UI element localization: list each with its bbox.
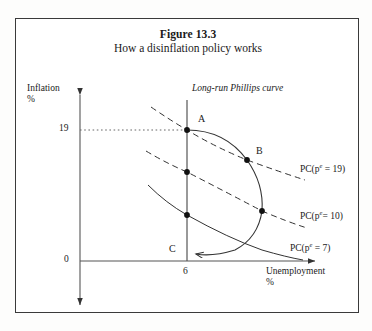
x-axis-label-line1: Unemployment — [266, 266, 325, 276]
y-axis-label: Inflation % — [27, 83, 60, 105]
pc-10-prefix: PC(p — [300, 211, 320, 221]
point-a-label: A — [198, 113, 205, 124]
pc-7-prefix: PC(p — [290, 243, 310, 253]
x-axis-label-line2: % — [266, 277, 274, 287]
y-axis-label-line2: % — [27, 94, 35, 104]
figure-caption: How a disinflation policy works — [16, 41, 360, 55]
x-tick-6-label: 6 — [183, 266, 188, 276]
point-b-label: B — [256, 145, 263, 156]
figure-container: Figure 13.3 How a disinflation policy wo… — [0, 0, 372, 331]
pc-19-suffix: = 19) — [322, 164, 345, 174]
pc-curve-7-label: PC(pe = 7) — [290, 243, 330, 253]
pc-curve-19-label: PC(pe = 19) — [300, 164, 345, 174]
pc-19-prefix: PC(p — [300, 164, 320, 174]
y-tick-19-label: 19 — [59, 123, 69, 133]
figure-number: Figure 13.3 — [16, 27, 360, 41]
long-run-phillips-curve-label: Long-run Phillips curve — [192, 83, 283, 93]
y-axis-label-line1: Inflation — [27, 83, 60, 93]
origin-label: 0 — [64, 254, 69, 264]
point-c-label: C — [169, 243, 176, 254]
pc-7-suffix: = 7) — [312, 243, 330, 253]
figure-title-block: Figure 13.3 How a disinflation policy wo… — [16, 27, 360, 55]
pc-10-suffix: = 10) — [322, 211, 342, 221]
pc-curve-10-label: PC(pe= 10) — [300, 211, 343, 221]
x-axis-label: Unemployment % — [266, 266, 325, 288]
